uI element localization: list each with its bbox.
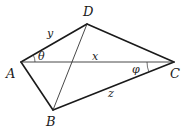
side-label-x: x (92, 50, 99, 63)
diagonal-BD (53, 24, 87, 110)
side-label-y: y (46, 27, 54, 40)
angle-label-theta: θ (38, 50, 45, 63)
quadrilateral-diagram: D A C B y x z θ φ (0, 0, 192, 132)
vertex-label-D: D (82, 4, 94, 19)
side-label-z: z (107, 87, 114, 100)
vertex-label-C: C (170, 66, 180, 81)
angle-label-phi: φ (132, 63, 140, 76)
edge-DC (87, 24, 174, 62)
edge-CB (53, 62, 174, 110)
angle-arc-phi (147, 62, 149, 72)
vertex-label-B: B (45, 114, 56, 129)
edge-AD (21, 24, 87, 62)
angle-arc-theta (33, 55, 35, 62)
edge-BA (21, 62, 53, 110)
vertex-label-A: A (5, 66, 15, 81)
